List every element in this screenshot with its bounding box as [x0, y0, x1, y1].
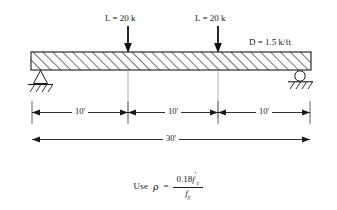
beam-loading-figure: L = 20 k L = 20 k D = 1.5 k/ft 10' 10' 1…	[0, 0, 337, 210]
formula-prefix: Use	[134, 181, 149, 191]
numerator-subscript: c	[197, 179, 200, 186]
roller-support	[288, 71, 313, 89]
formula-denominator: fy	[181, 188, 194, 200]
point-load-label-1: L = 20 k	[105, 14, 136, 23]
dimension-label-segment-3: 10'	[256, 107, 272, 116]
formula-numerator: 0.18f′c	[173, 172, 204, 187]
point-load-arrow-1	[124, 26, 132, 53]
point-load-label-2: L = 20 k	[195, 14, 226, 23]
formula-equals: =	[163, 181, 168, 191]
beam	[31, 52, 311, 70]
point-load-arrow-2	[214, 26, 222, 53]
numerator-coefficient: 0.18	[177, 174, 193, 184]
dimension-label-segment-1: 10'	[72, 107, 88, 116]
dimension-label-total: 30'	[163, 134, 179, 143]
dimension-label-segment-2: 10'	[165, 107, 181, 116]
distributed-load-label: D = 1.5 k/ft	[249, 38, 291, 47]
pinned-support	[28, 71, 53, 93]
formula-variable-rho: ρ	[152, 180, 159, 192]
formula-fraction: 0.18f′c fy	[173, 172, 204, 201]
denominator-subscript: y	[188, 193, 191, 200]
formula: Use ρ = 0.18f′c fy	[0, 172, 337, 201]
